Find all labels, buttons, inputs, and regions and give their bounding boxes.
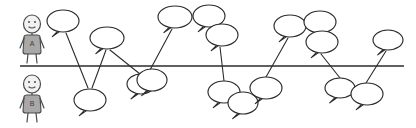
speech-bubble[interactable] xyxy=(351,83,383,110)
speaker-b-eye-left xyxy=(28,81,30,83)
speech-bubble[interactable] xyxy=(274,15,306,42)
speech-bubble[interactable] xyxy=(47,10,79,37)
speaker-a-eye-left xyxy=(28,21,30,23)
speaker-b-leg-right xyxy=(36,113,37,122)
speech-bubble-body xyxy=(304,11,336,33)
speech-bubble-layer xyxy=(47,5,403,119)
speech-bubble-body xyxy=(158,6,192,28)
speaker-b-label: B xyxy=(30,100,35,107)
speech-bubble-body xyxy=(250,77,282,99)
speaker-b-head xyxy=(24,75,41,93)
speaker-a-head xyxy=(24,15,41,33)
speaker-a-eye-right xyxy=(34,21,36,23)
speech-bubble[interactable] xyxy=(373,30,403,55)
speech-bubble[interactable] xyxy=(325,78,355,103)
conversation-connector xyxy=(110,50,140,74)
speech-bubble-body xyxy=(306,31,338,53)
speaker-b-eye-right xyxy=(34,81,36,83)
diagram-canvas: A B xyxy=(0,0,416,128)
speech-bubble[interactable] xyxy=(74,89,106,116)
conversation-connector xyxy=(220,47,224,81)
speech-bubble-body xyxy=(137,69,167,91)
speaker-b-figure: B xyxy=(20,75,44,122)
speech-bubble-body xyxy=(90,27,124,49)
conversation-timeline-diagram: A B xyxy=(0,0,416,128)
conversation-connector xyxy=(366,51,386,83)
speech-bubble-body xyxy=(74,89,106,111)
speaker-a-figure: A xyxy=(20,15,44,63)
speaker-a-leg-right xyxy=(36,54,37,63)
conversation-connector xyxy=(66,33,88,88)
speech-bubble-body xyxy=(206,24,238,46)
speaker-a-leg-left xyxy=(27,54,28,63)
conversation-connector xyxy=(266,38,288,77)
speech-bubble-body xyxy=(351,83,383,105)
speech-bubble-body xyxy=(47,10,79,32)
conversation-connector xyxy=(150,29,172,70)
conversation-connector xyxy=(92,50,106,88)
speech-bubble-body xyxy=(274,15,306,37)
speech-bubble[interactable] xyxy=(228,92,258,119)
speech-bubble[interactable] xyxy=(306,31,338,58)
speech-bubble-body xyxy=(373,30,403,50)
speech-bubble[interactable] xyxy=(158,6,192,33)
speech-bubble[interactable] xyxy=(206,24,238,51)
speaker-b-leg-left xyxy=(27,113,28,122)
speech-bubble[interactable] xyxy=(90,27,124,54)
speaker-a-label: A xyxy=(30,40,35,47)
